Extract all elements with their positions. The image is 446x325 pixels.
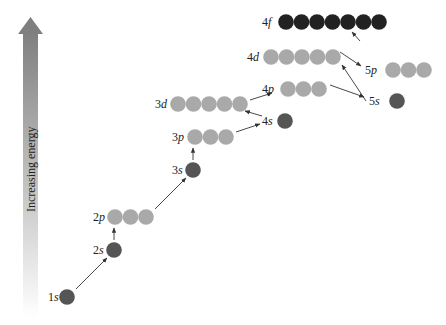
orbital-circle [106, 242, 122, 258]
orbital-5p: 5p [365, 62, 432, 78]
orbital-label-4f: 4f [262, 15, 273, 29]
orbital-circle [187, 129, 203, 145]
orbital-circle [385, 62, 401, 78]
orbital-circle [278, 14, 294, 30]
orbital-label-2s: 2s [93, 243, 104, 257]
orbital-circle [325, 14, 341, 30]
arrow-4d-to-5p [340, 52, 361, 66]
energy-axis-label: Increasing energy [24, 127, 38, 212]
orbital-circle [203, 129, 219, 145]
orbital-1s: 1s [48, 289, 75, 305]
orbital-circle [170, 96, 186, 112]
orbital-label-4p: 4p [262, 82, 274, 96]
orbital-circle [371, 14, 387, 30]
orbital-3s: 3s [172, 162, 201, 178]
orbital-energy-diagram: Increasing energy 1s2s2p3s3p4s3d4p5s4d5p… [0, 0, 446, 325]
arrow-5p-to-4f [352, 32, 360, 41]
orbital-circle [232, 96, 248, 112]
orbital-label-5s: 5s [369, 94, 380, 108]
arrow-5s-to-4d [342, 65, 366, 101]
orbital-circle [138, 209, 154, 225]
orbital-label-4s: 4s [262, 114, 273, 128]
orbital-circle [294, 14, 310, 30]
orbital-3p: 3p [172, 129, 234, 145]
orbital-label-3d: 3d [155, 97, 168, 111]
orbital-label-5p: 5p [365, 63, 377, 77]
orbital-circle [186, 96, 202, 112]
arrow-4s-to-3d [245, 111, 262, 116]
orbital-groups: 1s2s2p3s3p4s3d4p5s4d5p4f [48, 14, 432, 305]
orbital-circle [279, 49, 295, 65]
orbital-circle [389, 93, 405, 109]
orbital-circle [310, 49, 326, 65]
orbital-circle [263, 49, 279, 65]
orbital-label-4d: 4d [247, 50, 260, 64]
orbital-label-2p: 2p [93, 210, 105, 224]
orbital-4d: 4d [247, 49, 341, 65]
orbital-circle [280, 81, 296, 97]
arrow-3p-to-4s [236, 124, 260, 132]
orbital-label-3p: 3p [172, 130, 184, 144]
orbital-circle [59, 289, 75, 305]
orbital-4p: 4p [262, 81, 327, 97]
orbital-5s: 5s [369, 93, 405, 109]
orbital-circle [201, 96, 217, 112]
orbital-3d: 3d [155, 96, 248, 112]
orbital-circle [309, 14, 325, 30]
orbital-circle [294, 49, 310, 65]
orbital-4s: 4s [262, 113, 293, 129]
orbital-circle [277, 113, 293, 129]
orbital-circle [356, 14, 372, 30]
orbital-circle [311, 81, 327, 97]
orbital-label-1s: 1s [48, 290, 59, 304]
orbital-circle [218, 129, 234, 145]
orbital-4f: 4f [262, 14, 387, 30]
orbital-circle [107, 209, 123, 225]
orbital-circle [416, 62, 432, 78]
orbital-circle [296, 81, 312, 97]
orbital-circle [217, 96, 233, 112]
arrow-2p-to-3s [155, 178, 186, 209]
orbital-2p: 2p [93, 209, 154, 225]
orbital-circle [185, 162, 201, 178]
orbital-label-3s: 3s [172, 163, 183, 177]
arrow-1s-to-2s [76, 258, 107, 289]
orbital-circle [123, 209, 139, 225]
orbital-circle [340, 14, 356, 30]
orbital-2s: 2s [93, 242, 122, 258]
orbital-circle [401, 62, 417, 78]
orbital-circle [325, 49, 341, 65]
